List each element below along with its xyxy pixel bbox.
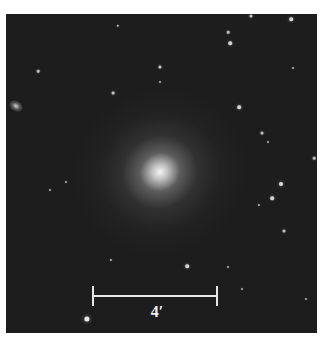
star [279, 182, 283, 186]
star [292, 67, 294, 69]
star [261, 132, 264, 135]
scale-bar-label: 4′ [151, 303, 164, 321]
star [117, 25, 119, 27]
star [250, 15, 253, 18]
star [185, 264, 189, 268]
scale-bar-line [92, 295, 218, 297]
central-galaxy [40, 53, 281, 290]
star [258, 204, 260, 206]
star [267, 141, 269, 143]
scale-bar-right-tick [216, 286, 218, 306]
star [237, 105, 241, 109]
astronomical-image: 4′ [6, 14, 317, 333]
star [241, 288, 243, 290]
star [313, 157, 316, 160]
star [110, 259, 112, 261]
star [305, 298, 307, 300]
star [270, 196, 274, 200]
star [37, 70, 40, 73]
star [228, 41, 232, 45]
edge-galaxy [7, 98, 24, 114]
star [158, 65, 161, 68]
star [159, 81, 161, 83]
star [65, 181, 67, 183]
star [112, 92, 115, 95]
star [227, 31, 230, 34]
star [289, 17, 293, 21]
star [84, 316, 89, 321]
star [283, 230, 286, 233]
star [227, 266, 229, 268]
star [49, 189, 51, 191]
